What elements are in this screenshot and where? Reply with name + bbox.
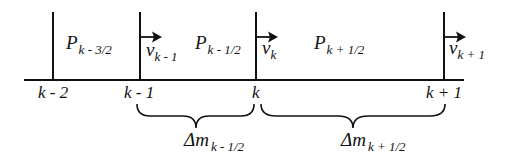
velocity-label-k-minus-1: vk - 1 [146,39,178,64]
staggered-grid-diagram: Pk - 3/2 Pk - 1/2 Pk + 1/2 vk - 1 vk vk … [0,0,509,160]
velocity-label-k-plus-1: vk + 1 [449,37,485,62]
mass-label-k-plus-1-2: Δmk + 1/2 [340,129,406,154]
node-label-k-plus-1: k + 1 [426,83,462,102]
velocity-label-k: vk [262,37,276,62]
node-label-k-minus-2: k - 2 [38,83,69,102]
mass-label-k-minus-1-2: Δmk - 1/2 [183,129,245,154]
pressure-label-k-minus-1-2: Pk - 1/2 [194,32,241,57]
pressure-label-k-plus-1-2: Pk + 1/2 [313,32,365,57]
brace-icon [137,104,254,128]
pressure-label-k-minus-3-2: Pk - 3/2 [65,32,112,57]
brace-icon [261,104,445,128]
node-label-k-minus-1: k - 1 [124,83,154,102]
node-label-k: k [252,83,260,102]
